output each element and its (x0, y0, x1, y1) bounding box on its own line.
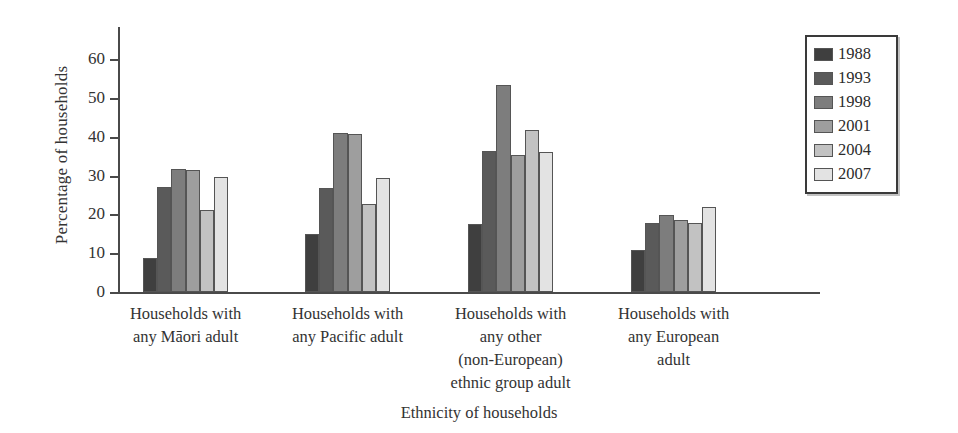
legend-label: 1993 (838, 69, 871, 87)
y-tick: 20 (110, 214, 119, 216)
bar (645, 223, 659, 292)
plot-area: 0102030405060 (118, 27, 820, 294)
x-axis-line (118, 292, 820, 294)
y-tick-label: 10 (88, 243, 105, 263)
x-axis-title: Ethnicity of households (0, 403, 958, 423)
bar (539, 152, 553, 292)
x-category-label-line: any Pacific adult (253, 325, 443, 348)
legend-swatch-icon (814, 144, 833, 157)
bar (659, 215, 673, 292)
x-category-label-line: Households with (579, 302, 769, 325)
y-tick-label: 60 (88, 49, 105, 69)
legend-label: 1998 (838, 93, 871, 111)
bar (362, 204, 376, 292)
y-tick: 0 (110, 292, 119, 294)
legend-item-1993[interactable]: 1993 (807, 66, 896, 90)
legend-item-1998[interactable]: 1998 (807, 90, 896, 114)
x-category-label-line: any European (579, 325, 769, 348)
y-tick: 50 (110, 98, 119, 100)
y-tick: 60 (110, 59, 119, 61)
y-tick-label: 0 (97, 282, 106, 302)
legend-swatch-icon (814, 120, 833, 133)
legend-swatch-icon (814, 72, 833, 85)
x-category-label: Households withany other(non-European)et… (416, 302, 606, 394)
y-axis-title: Percentage of households (52, 40, 72, 270)
legend-label: 1988 (838, 45, 871, 63)
y-tick: 30 (110, 176, 119, 178)
bar (631, 250, 645, 292)
legend-label: 2004 (838, 141, 871, 159)
x-category-label-line: Households with (416, 302, 606, 325)
bar (482, 151, 496, 292)
legend-label: 2007 (838, 165, 871, 183)
y-tick-label: 40 (88, 127, 105, 147)
bar (525, 130, 539, 292)
legend-swatch-icon (814, 168, 833, 181)
bar (674, 220, 688, 292)
x-category-label: Households withany Europeanadult (579, 302, 769, 371)
bar (157, 187, 171, 292)
bar (348, 134, 362, 292)
bar (333, 133, 347, 292)
legend-item-2004[interactable]: 2004 (807, 138, 896, 162)
bar (143, 258, 157, 292)
bar (214, 177, 228, 292)
legend-label: 2001 (838, 117, 871, 135)
bar (496, 85, 510, 292)
x-category-label-line: (non-European) (416, 348, 606, 371)
x-category-label-line: adult (579, 348, 769, 371)
x-category-label: Households withany Pacific adult (253, 302, 443, 348)
bar (186, 170, 200, 292)
bar (468, 224, 482, 292)
bar (200, 210, 214, 292)
legend: 198819931998200120042007 (805, 35, 898, 194)
bar (688, 223, 702, 292)
bar (319, 188, 333, 292)
y-tick-label: 50 (88, 88, 105, 108)
y-tick: 10 (110, 253, 119, 255)
legend-swatch-icon (814, 48, 833, 61)
y-tick: 40 (110, 137, 119, 139)
y-tick-label: 30 (88, 166, 105, 186)
y-tick-label: 20 (88, 204, 105, 224)
bar (305, 234, 319, 292)
bar (511, 155, 525, 292)
bar-chart: Percentage of households 0102030405060 H… (0, 0, 958, 433)
x-category-label-line: ethnic group adult (416, 371, 606, 394)
legend-item-2007[interactable]: 2007 (807, 162, 896, 186)
x-category-label-line: Households with (253, 302, 443, 325)
legend-swatch-icon (814, 96, 833, 109)
bar (702, 207, 716, 292)
bar (376, 178, 390, 292)
bar (171, 169, 185, 292)
x-category-label-line: any other (416, 325, 606, 348)
legend-item-1988[interactable]: 1988 (807, 42, 896, 66)
legend-item-2001[interactable]: 2001 (807, 114, 896, 138)
